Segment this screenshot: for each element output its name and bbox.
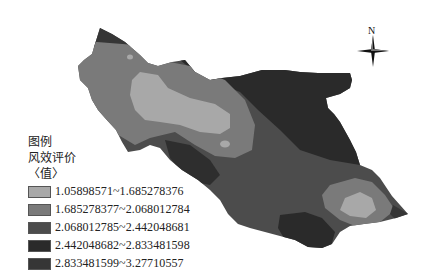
legend-swatch (28, 204, 51, 216)
legend-swatch (28, 186, 51, 198)
legend-item-label: 2.068012785~2.442048681 (55, 220, 190, 235)
legend-unit: 〈值〉 (28, 166, 190, 182)
legend-item-label: 2.442048682~2.833481598 (55, 238, 190, 253)
legend-title: 图例 (28, 134, 190, 150)
compass-star-icon (355, 25, 391, 71)
legend-item-label: 1.685278377~2.068012784 (55, 202, 190, 217)
legend-item-label: 2.833481599~3.27710557 (55, 256, 184, 271)
north-arrow: N (355, 25, 391, 71)
map-legend: 图例 风效评价 〈值〉 1.05898571~1.685278376 1.685… (28, 134, 190, 272)
legend-swatch (28, 258, 51, 270)
legend-item: 1.685278377~2.068012784 (28, 201, 190, 218)
legend-item: 2.833481599~3.27710557 (28, 255, 190, 272)
legend-item-label: 1.05898571~1.685278376 (55, 184, 184, 199)
legend-field: 风效评价 (28, 150, 190, 166)
legend-swatch (28, 240, 51, 252)
legend-swatch (28, 222, 51, 234)
legend-item: 2.068012785~2.442048681 (28, 219, 190, 236)
legend-item: 1.05898571~1.685278376 (28, 183, 190, 200)
legend-item: 2.442048682~2.833481598 (28, 237, 190, 254)
